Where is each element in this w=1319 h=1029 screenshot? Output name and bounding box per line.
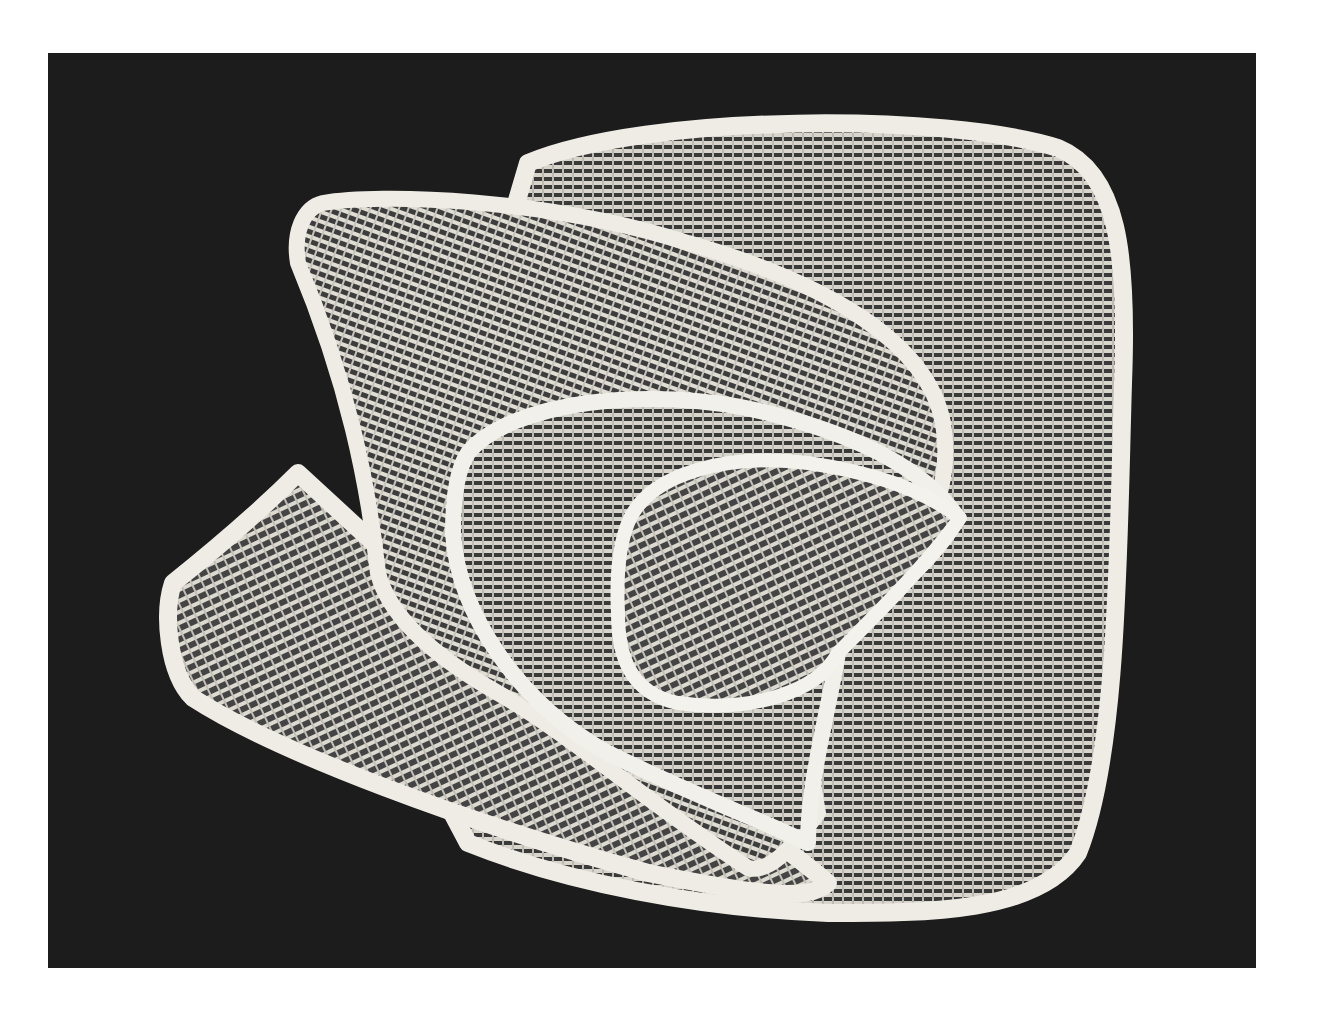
woven-baskets-illustration — [48, 53, 1256, 968]
photo-frame — [48, 53, 1256, 968]
